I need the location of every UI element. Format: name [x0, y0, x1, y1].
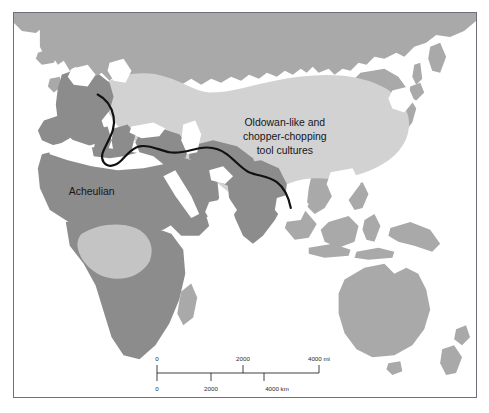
scale-mi-label-4000: 4000 mi [308, 355, 330, 362]
label-oldowan-line-3: tool cultures [257, 145, 313, 156]
map-frame: Acheulian Oldowan-like and chopper-chopp… [13, 12, 477, 398]
label-oldowan-line-2: chopper-chopping [243, 131, 327, 142]
scale-mi-label-2000: 2000 [236, 355, 250, 362]
label-acheulian: Acheulian [69, 186, 115, 197]
scale-bar: 0 2000 4000 mi 0 2000 4000 km [149, 351, 339, 395]
scale-km-label-4000: 4000 km [265, 385, 289, 392]
scale-km-label-0: 0 [155, 385, 159, 392]
scale-mi-label-0: 0 [155, 355, 159, 362]
scale-km-label-2000: 2000 [204, 385, 218, 392]
map-figure: Acheulian Oldowan-like and chopper-chopp… [0, 0, 489, 413]
scale-bar-graphic: 0 2000 4000 mi 0 2000 4000 km [149, 351, 339, 395]
label-oldowan-line-1: Oldowan-like and [244, 117, 325, 128]
world-map-graphic: Acheulian Oldowan-like and chopper-chopp… [14, 13, 476, 397]
